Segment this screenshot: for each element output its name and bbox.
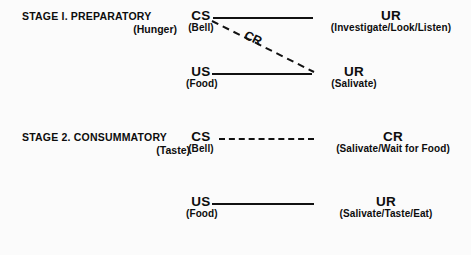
stage-1-row-2-connector [212,73,312,75]
stage-2-row-2-connector [212,203,314,205]
stage-2-row-1-left-node: CS (Bell) [186,130,216,155]
stage-1-subheading: (Hunger) [22,23,177,35]
stage-2-row-2-right-paren: (Salivate/Taste/Eat) [316,207,456,220]
stage-2-row-1-right-node: CR (Salivate/Wait for Food) [317,130,469,155]
stage-1-diagonal-dashed-line [212,21,314,72]
stage-2-row-1-connector [219,138,314,140]
stage-2-row-1-right-paren: (Salivate/Wait for Food) [317,142,469,155]
conditioning-stages-diagram: STAGE I. PREPARATORY (Hunger) CS (Bell) … [0,0,471,255]
stage-2-row-2-right-node: UR (Salivate/Taste/Eat) [316,195,456,220]
stage-1-row-2-right-paren: (Salivate) [314,77,394,90]
stage-1-row-1-right-node: UR (Investigate/Look/Listen) [316,9,466,34]
stage-2-row-1-left-paren: (Bell) [186,142,216,155]
stage-2-row-2-left-paren: (Food) [186,207,216,220]
stage-1-row-2-left-paren: (Food) [186,77,216,90]
stage-1-row-2-left-node: US (Food) [186,65,216,90]
stage-1-heading: STAGE I. PREPARATORY [22,10,151,22]
stage-1-row-2-right-node: UR (Salivate) [314,65,394,90]
stage-2-subheading: (Taste) [22,144,190,156]
stage-2-heading: STAGE 2. CONSUMMATORY [22,131,167,143]
stage-1-diagonal-connector [208,18,318,78]
stage-1-row-1-right-paren: (Investigate/Look/Listen) [316,21,466,34]
stage-2-row-2-left-node: US (Food) [186,195,216,220]
